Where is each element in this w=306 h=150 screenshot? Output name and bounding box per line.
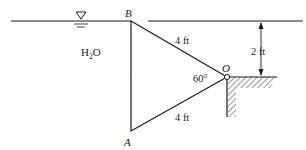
ground-hatch-icon [227, 77, 277, 117]
upper-side-length: 4 ft [175, 35, 189, 46]
point-label-a: A [123, 136, 131, 148]
angle-label: 60° [193, 73, 208, 84]
free-surface-triangle-icon [74, 12, 88, 27]
depth-length: 2 ft [251, 46, 265, 57]
point-label-b: B [125, 7, 132, 19]
hinge-circle-icon [224, 74, 229, 79]
gate-diagram: B A O 4 ft 4 ft 2 ft 60° H2O [0, 0, 306, 150]
fluid-label: H2O [81, 46, 101, 61]
point-label-o: O [222, 62, 230, 74]
lower-side-length: 4 ft [175, 112, 189, 123]
